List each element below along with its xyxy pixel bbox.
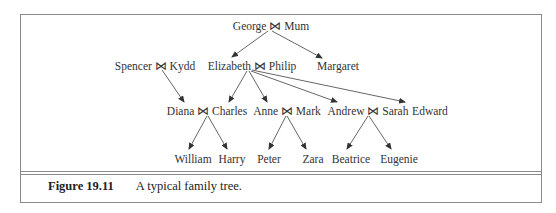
edge <box>162 70 184 102</box>
node-peter: Peter <box>257 153 281 165</box>
figure-label: Figure 19.11 <box>48 179 114 193</box>
node-andrew-sarah: Andrew ⋈ Sarah <box>328 105 409 117</box>
edge <box>347 116 368 149</box>
edge <box>208 116 227 149</box>
edge <box>269 116 286 149</box>
edge <box>252 70 405 102</box>
edge <box>369 116 391 149</box>
edge <box>287 116 306 149</box>
edge <box>272 31 322 58</box>
node-george-mum: George ⋈ Mum <box>233 20 309 33</box>
edge <box>232 31 268 57</box>
node-harry: Harry <box>219 153 246 166</box>
tree-edges <box>162 31 405 149</box>
node-anne-mark: Anne ⋈ Mark <box>253 105 321 117</box>
node-edward: Edward <box>412 105 448 117</box>
node-zara: Zara <box>302 153 323 165</box>
node-elizabeth-philip: Elizabeth ⋈ Philip <box>208 60 297 73</box>
edge <box>189 116 207 149</box>
node-william: William <box>174 153 211 165</box>
node-spencer-kydd: Spencer ⋈ Kydd <box>115 60 196 73</box>
node-margaret: Margaret <box>317 60 360 73</box>
figure-caption: Figure 19.11A typical family tree. <box>48 179 242 194</box>
figure-caption-text: A typical family tree. <box>136 179 242 193</box>
node-eugenie: Eugenie <box>380 153 418 166</box>
edge <box>229 71 247 102</box>
node-diana-charles: Diana ⋈ Charles <box>167 105 248 117</box>
node-beatrice: Beatrice <box>332 153 370 165</box>
